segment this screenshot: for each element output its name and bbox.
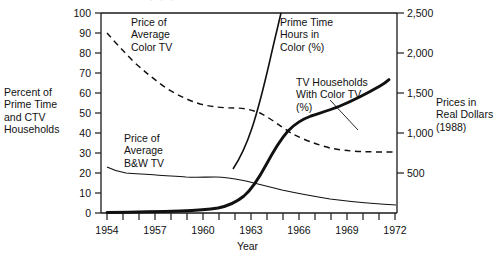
annotation-price-color-tv-line-3: Color TV [131,41,172,53]
y-tick-right-500: 500 [407,168,451,179]
y-axis-right-title: Prices in Real Dollars (1988) [436,96,493,133]
annotation-prime-time-hours-color: Prime Time Hours in Color (%) [280,16,333,53]
x-tick-1969: 1969 [327,225,367,236]
y-tick-left-0: 0 [57,208,91,219]
annotation-tv-households-line-2: With Color TV [296,88,368,100]
y-tick-left-20: 20 [57,168,91,179]
y-tick-right-2500: 2,500 [407,8,451,19]
x-axis-title: Year [0,240,495,252]
x-tick-1960: 1960 [183,225,223,236]
y-axis-left-title-line-3: and CTV [4,111,59,123]
annotation-price-color-tv: Price of Average Color TV [131,16,172,53]
x-tick-1972: 1972 [375,225,415,236]
y-tick-left-30: 30 [57,148,91,159]
x-axis-ticks [107,213,395,220]
annotation-prime-time-line-1: Prime Time [280,16,333,28]
y-axis-right-title-line-3: (1988) [436,121,493,133]
y-tick-left-100: 100 [57,8,91,19]
series-prime-time-hours-color [233,13,281,169]
y-axis-left-title-line-1: Percent of [4,86,59,98]
x-tick-1954: 1954 [87,225,127,236]
annotation-tv-households-line-1: TV Households [296,76,368,88]
y-tick-left-90: 90 [57,28,91,39]
chart-figure: · · · [0,0,495,260]
annotation-price-color-tv-line-2: Average [131,28,172,40]
annotation-tv-households-color: TV Households With Color TV (%) [296,76,368,113]
y-tick-left-40: 40 [57,128,91,139]
annotation-price-bw-tv-line-3: B&W TV [124,157,164,169]
y-tick-left-80: 80 [57,48,91,59]
y-axis-left-ticks [95,13,101,213]
y-axis-left-title-line-2: Prime Time [4,98,59,110]
x-tick-1966: 1966 [279,225,319,236]
annotation-tv-households-line-3: (%) [296,101,368,113]
y-axis-left-title: Percent of Prime Time and CTV Households [4,86,59,136]
x-tick-1957: 1957 [135,225,175,236]
annotation-price-bw-tv-line-1: Price of [124,132,164,144]
y-tick-right-2000: 2,000 [407,48,451,59]
annotation-prime-time-line-2: Hours in [280,28,333,40]
y-axis-right-title-line-2: Real Dollars [436,108,493,120]
y-tick-left-60: 60 [57,88,91,99]
y-tick-left-70: 70 [57,68,91,79]
annotation-price-bw-tv: Price of Average B&W TV [124,132,164,169]
y-tick-left-10: 10 [57,188,91,199]
annotation-price-color-tv-line-1: Price of [131,16,172,28]
annotation-prime-time-line-3: Color (%) [280,41,333,53]
x-tick-1963: 1963 [231,225,271,236]
y-axis-right-ticks [397,13,404,173]
y-tick-left-50: 50 [57,108,91,119]
annotation-price-bw-tv-line-2: Average [124,144,164,156]
y-axis-left-title-line-4: Households [4,123,59,135]
y-axis-right-title-line-1: Prices in [436,96,493,108]
